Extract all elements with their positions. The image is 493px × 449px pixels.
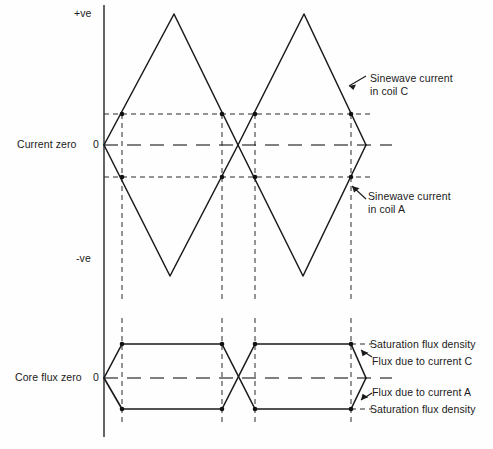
annotation-saturation-bottom: Saturation flux density (370, 403, 476, 416)
figure-container: +ve -ve Current zero 0 Core flux zero 0 … (0, 0, 493, 449)
axis-negative-label: -ve (76, 252, 91, 265)
flux-node-markers (120, 342, 354, 412)
flux-curve-c (104, 344, 366, 409)
flux-zero-caption: Core flux zero (15, 371, 82, 384)
annotation-saturation-top: Saturation flux density (370, 338, 476, 351)
flux-curve-a (104, 344, 366, 409)
arrowhead-flux-a (361, 394, 368, 400)
current-zero-caption: Current zero (17, 138, 77, 151)
annotation-sinewave-coil-c: Sinewave current in coil C (370, 72, 453, 97)
arrowhead-flux-c (361, 350, 368, 356)
annotation-sinewave-coil-c-line1: Sinewave current (370, 72, 453, 85)
leader-sinewave-c (349, 76, 366, 86)
flux-zero-value: 0 (93, 371, 99, 384)
annotation-sinewave-coil-a-line2: in coil A (368, 203, 451, 216)
waveform-coil-a (104, 14, 366, 276)
annotation-flux-current-c: Flux due to current C (372, 355, 472, 368)
waveform-coil-c (104, 14, 366, 276)
annotation-sinewave-coil-a-line1: Sinewave current (368, 190, 451, 203)
axis-positive-label: +ve (74, 7, 92, 20)
current-zero-value: 0 (93, 138, 99, 151)
annotation-sinewave-coil-a: Sinewave current in coil A (368, 190, 451, 215)
annotation-sinewave-coil-c-line2: in coil C (370, 85, 453, 98)
annotation-flux-current-a: Flux due to current A (372, 386, 471, 399)
